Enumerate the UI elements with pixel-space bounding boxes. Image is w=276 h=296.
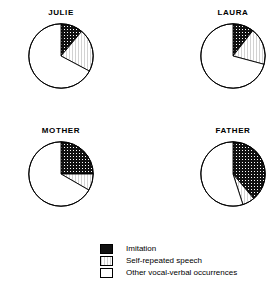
pie-chart-figure: JULIE LAURA MOTHER FATHER Imitation Sel [0,0,276,296]
pie-cell-julie: JULIE [6,8,116,94]
pie-wrap-mother [27,140,95,208]
legend-item-self-repeated-speech: Self-repeated speech [100,255,270,267]
legend-label-imitation: Imitation [126,244,156,254]
pie-title-julie: JULIE [6,8,116,19]
legend-swatch-imitation [100,244,113,254]
pie-wrap-laura [199,22,267,90]
pie-svg-mother [27,140,95,208]
pie-title-mother: MOTHER [6,126,116,137]
legend-item-other-vocal-verbal: Other vocal-verbal occurrences [100,267,270,279]
legend-item-imitation: Imitation [100,243,270,255]
legend-label-other-vocal-verbal: Other vocal-verbal occurrences [126,268,237,278]
pie-cell-mother: MOTHER [6,126,116,212]
pie-wrap-julie [27,22,95,90]
pie-wrap-father [199,140,267,208]
pie-svg-father [199,140,267,208]
pie-title-laura: LAURA [178,8,276,19]
legend-swatch-self-repeated-speech [100,256,113,266]
pie-svg-julie [27,22,95,90]
legend-label-self-repeated-speech: Self-repeated speech [126,256,202,266]
legend-swatch-other-vocal-verbal [100,268,113,278]
pie-cell-laura: LAURA [178,8,276,94]
pie-svg-laura [199,22,267,90]
pie-cell-father: FATHER [178,126,276,212]
chart-legend: Imitation Self-repeated speech Other voc… [100,243,270,279]
pie-title-father: FATHER [178,126,276,137]
